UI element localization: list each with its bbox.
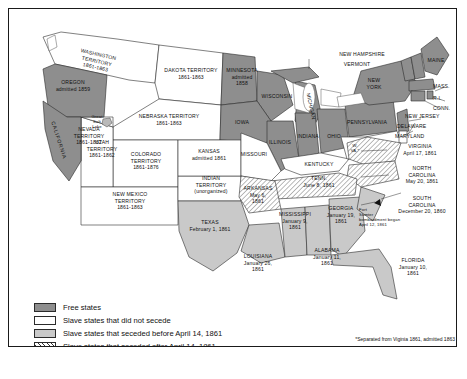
- legend-item-free-states: Free states: [34, 301, 222, 314]
- map-footnote: *Separated from Viginia 1861, admitted 1…: [355, 336, 455, 342]
- legend-swatch-seceded-before-icon: [34, 329, 56, 338]
- legend-swatch-did-not-secede-icon: [34, 316, 56, 325]
- legend-item-seceded-after: Slave states that seceded after April 14…: [34, 340, 222, 347]
- legend-item-seceded-before: Slave states that seceded before April 1…: [34, 327, 222, 340]
- map-container: WASHINGTON TERRITORY 1861-1863 OREGON ad…: [8, 8, 457, 347]
- legend-swatch-free-icon: [34, 303, 56, 312]
- legend-swatch-seceded-after-icon: [34, 342, 56, 347]
- legend-label-seceded-before: Slave states that seceded before April 1…: [63, 329, 222, 338]
- map-legend: Free states Slave states that did not se…: [34, 301, 222, 347]
- legend-label-free-states: Free states: [63, 303, 101, 312]
- legend-label-did-not-secede: Slave states that did not secede: [63, 316, 171, 325]
- legend-label-seceded-after: Slave states that seceded after April 14…: [63, 342, 216, 347]
- legend-item-did-not-secede: Slave states that did not secede: [34, 314, 222, 327]
- us-map-graphic: [9, 9, 456, 346]
